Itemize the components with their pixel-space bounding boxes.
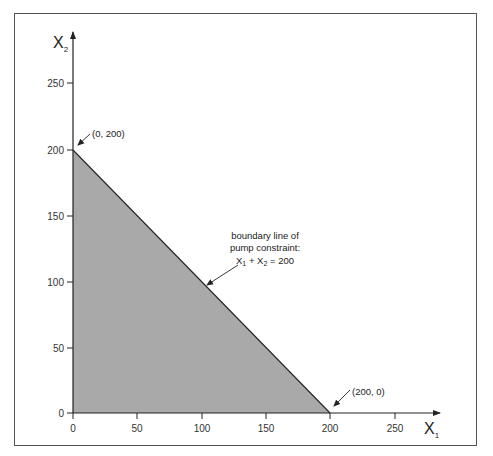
y-tick-label: 100 — [47, 277, 64, 288]
x-axis-title: X1 — [424, 420, 440, 440]
y-tick-label: 200 — [47, 145, 64, 156]
point-top-arrow — [78, 134, 90, 145]
x-tick-label: 100 — [194, 423, 211, 434]
point-right-label: (200, 0) — [352, 386, 385, 397]
y-ticks — [67, 83, 73, 413]
x-tick-label: 200 — [322, 423, 339, 434]
x-tick-label: 50 — [131, 423, 143, 434]
point-right-arrow — [334, 390, 350, 406]
boundary-arrow — [207, 265, 238, 285]
y-axis-title: X2 — [53, 34, 69, 54]
boundary-equation: X1 + X2 = 200 — [236, 255, 294, 267]
boundary-label-line1: boundary line of — [231, 230, 299, 241]
x-ticks — [73, 413, 395, 419]
y-tick-label: 0 — [58, 408, 64, 419]
y-tick-label: 50 — [53, 343, 65, 354]
point-top-label: (0, 200) — [92, 128, 125, 139]
y-tick-label: 150 — [47, 211, 64, 222]
chart-svg: 0 50 100 150 200 250 0 50 100 150 200 25… — [0, 0, 493, 456]
x-tick-label: 0 — [70, 423, 76, 434]
x-tick-label: 150 — [258, 423, 275, 434]
y-tick-label: 250 — [47, 78, 64, 89]
x-tick-label: 250 — [387, 423, 404, 434]
boundary-label-line2: pump constraint: — [230, 242, 300, 253]
